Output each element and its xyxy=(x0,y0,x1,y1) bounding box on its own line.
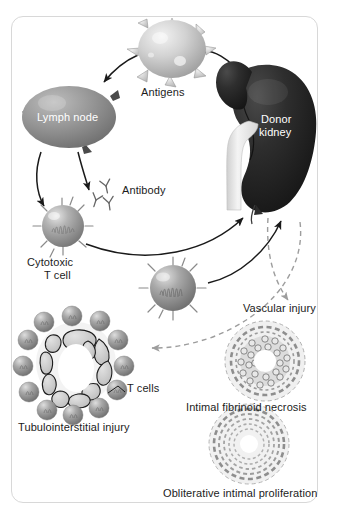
label-donor-kidney-line2: kidney xyxy=(259,126,291,138)
label-cytotoxic-line1: Cytotoxic xyxy=(27,256,73,268)
tubulointerstitial-lesion xyxy=(13,306,134,425)
label-donor-kidney-line1: Donor xyxy=(261,113,291,125)
antibody-y-molecules xyxy=(89,179,115,211)
arrow-lymph-node-to-cytotoxic-t-cell xyxy=(37,152,44,206)
label-lymph-node: Lymph node xyxy=(37,111,98,123)
arrow-effector-t-cell-to-kidney xyxy=(208,221,281,283)
label-tubulointerstitial-injury: Tubulointerstitial injury xyxy=(18,421,130,433)
intimal-fibrinoid-necrosis-lesion xyxy=(225,321,305,401)
obliterative-intimal-proliferation-lesion xyxy=(209,404,289,484)
cytotoxic-t-cell xyxy=(33,197,93,257)
arrow-lymph-node-to-antibody xyxy=(78,152,89,190)
label-intimal-fibrinoid-necrosis: Intimal fibrinoid necrosis xyxy=(186,401,307,413)
arrow-kidney-to-vascular-injury xyxy=(268,218,288,300)
arrow-cytotoxic-t-cell-to-kidney xyxy=(86,218,243,255)
antigen-presenting-cell xyxy=(127,18,216,87)
label-vascular-injury: Vascular injury xyxy=(243,302,316,314)
label-antigens: Antigens xyxy=(141,86,185,98)
effector-t-cell xyxy=(139,257,206,320)
arrow-antigens-to-lymph-node xyxy=(104,55,138,82)
label-antibody: Antibody xyxy=(122,184,166,196)
label-obliterative-intimal-proliferation: Obliterative intimal proliferation xyxy=(163,487,317,499)
label-t-cells: T cells xyxy=(127,382,159,394)
label-cytotoxic-line2: T cell xyxy=(44,269,71,281)
figure-canvas: Antigens Lymph node Donor kidney Antibod… xyxy=(0,0,342,511)
